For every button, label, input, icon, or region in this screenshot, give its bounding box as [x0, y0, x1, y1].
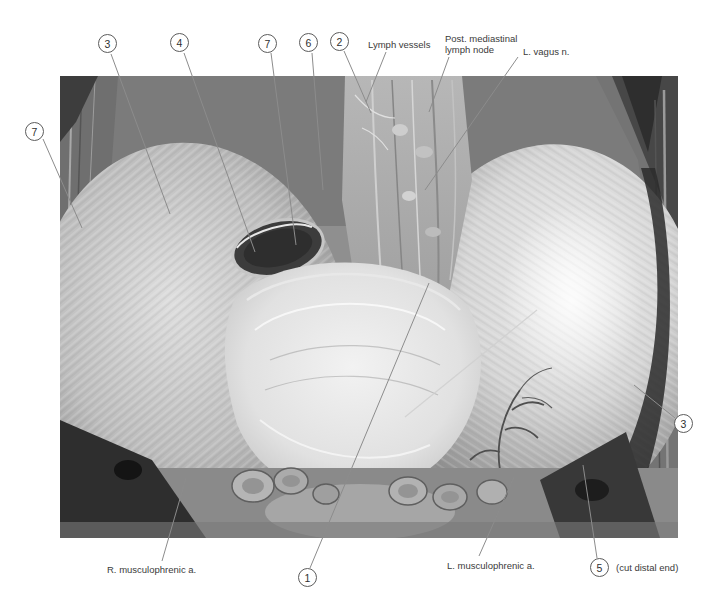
labels-layer: 734762315(cut distal end)Lymph vesselsPo…	[0, 0, 724, 613]
label-r-musculophrenic: R. musculophrenic a.	[107, 564, 196, 575]
label-post-mediastinal-line-1: Post. mediastinal	[445, 33, 517, 44]
label-r-musculophrenic-line-1: R. musculophrenic a.	[107, 564, 196, 575]
callout-6-top-number: 6	[299, 33, 318, 52]
callout-2-top: 2	[330, 32, 349, 51]
label-l-musculophrenic-line-1: L. musculophrenic a.	[447, 560, 535, 571]
callout-6-top: 6	[299, 33, 318, 52]
callout-7-top-number: 7	[258, 34, 277, 53]
callout-3-right: 3	[674, 414, 693, 433]
label-lymph-vessels: Lymph vessels	[368, 39, 430, 50]
callout-4-top-number: 4	[170, 33, 189, 52]
callout-7-top: 7	[258, 34, 277, 53]
callout-3-right-number: 3	[674, 414, 693, 433]
callout-1-bottom-number: 1	[298, 568, 317, 587]
callout-4-top: 4	[170, 33, 189, 52]
callout-5-bottom: 5(cut distal end)	[590, 558, 678, 577]
label-lymph-vessels-line-1: Lymph vessels	[368, 39, 430, 50]
callout-1-bottom: 1	[298, 568, 317, 587]
label-post-mediastinal: Post. mediastinallymph node	[445, 33, 517, 55]
callout-3-top: 3	[98, 34, 117, 53]
atlas-figure-page: 734762315(cut distal end)Lymph vesselsPo…	[0, 0, 724, 613]
callout-5-bottom-number: 5	[590, 558, 609, 577]
label-l-musculophrenic: L. musculophrenic a.	[447, 560, 535, 571]
callout-2-top-number: 2	[330, 32, 349, 51]
callout-7-left-number: 7	[25, 122, 44, 141]
label-l-vagus: L. vagus n.	[523, 46, 569, 57]
callout-7-left: 7	[25, 122, 44, 141]
label-l-vagus-line-1: L. vagus n.	[523, 46, 569, 57]
label-post-mediastinal-line-2: lymph node	[445, 44, 517, 55]
callout-3-top-number: 3	[98, 34, 117, 53]
callout-5-bottom-suffix: (cut distal end)	[616, 562, 678, 573]
